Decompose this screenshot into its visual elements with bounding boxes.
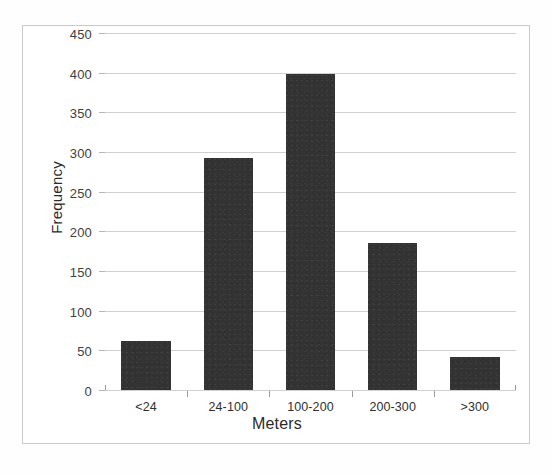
y-axis-tick-mark <box>99 73 105 74</box>
bar <box>450 357 499 390</box>
x-axis-category-label: >300 <box>434 400 516 414</box>
y-axis-tick-label: 200 <box>70 225 92 240</box>
y-axis-tick-mark <box>99 350 105 351</box>
bar <box>286 74 335 390</box>
y-axis-tick-label: 450 <box>70 27 92 42</box>
x-axis-category-label: 200-300 <box>352 400 434 414</box>
x-axis-separator-tick <box>187 391 188 397</box>
x-axis-title: Meters <box>23 415 531 433</box>
y-axis-title: Frequency <box>48 128 65 268</box>
y-axis-tick-label: 100 <box>70 304 92 319</box>
gridline <box>105 390 516 391</box>
chart-frame: Frequency 050100150200250300350400450<24… <box>22 25 530 444</box>
y-axis-tick-label: 400 <box>70 66 92 81</box>
y-axis-tick-mark <box>99 112 105 113</box>
y-axis-tick-mark <box>99 390 105 391</box>
y-axis-tick-mark <box>99 152 105 153</box>
y-axis-tick-label: 50 <box>77 344 92 359</box>
y-axis-tick-label: 250 <box>70 185 92 200</box>
y-axis-tick-label: 150 <box>70 265 92 280</box>
y-axis-tick-mark <box>99 33 105 34</box>
y-axis-tick-label: 300 <box>70 146 92 161</box>
y-axis-tick-label: 350 <box>70 106 92 121</box>
gridline <box>105 33 516 34</box>
bar <box>121 341 170 390</box>
y-axis-tick-mark <box>99 192 105 193</box>
y-axis-tick-mark <box>99 271 105 272</box>
bar <box>204 158 253 390</box>
x-axis-category-label: 24-100 <box>187 400 269 414</box>
x-axis-separator-tick <box>434 391 435 397</box>
y-axis-tick-label: 0 <box>85 384 92 399</box>
x-axis-category-label: <24 <box>105 400 187 414</box>
y-axis-tick-mark <box>99 311 105 312</box>
bar <box>368 243 417 390</box>
chart-page: Frequency 050100150200250300350400450<24… <box>0 0 552 475</box>
x-axis-category-label: 100-200 <box>269 400 351 414</box>
x-axis-separator-tick <box>352 391 353 397</box>
x-axis-separator-tick <box>269 391 270 397</box>
plot-area: 050100150200250300350400450<2424-100100-… <box>105 34 516 391</box>
y-axis-tick-mark <box>99 231 105 232</box>
